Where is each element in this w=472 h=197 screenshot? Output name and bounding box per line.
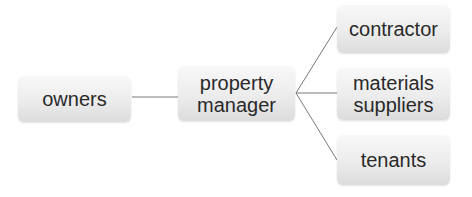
node-property-manager-line2: manager	[197, 94, 276, 116]
node-materials-suppliers: materials suppliers	[337, 68, 450, 120]
node-owners: owners	[18, 76, 131, 122]
node-property-manager-line1: property	[200, 72, 273, 94]
node-property-manager: property manager	[178, 66, 295, 121]
node-tenants: tenants	[337, 135, 450, 185]
node-owners-label: owners	[42, 88, 106, 110]
node-contractor-label: contractor	[349, 18, 438, 40]
edge-property-manager-contractor	[296, 27, 337, 93]
node-tenants-label: tenants	[361, 149, 427, 171]
node-materials-suppliers-line1: materials	[353, 72, 434, 94]
node-contractor: contractor	[337, 5, 450, 53]
node-materials-suppliers-line2: suppliers	[353, 94, 433, 116]
edge-property-manager-tenants	[296, 93, 337, 160]
